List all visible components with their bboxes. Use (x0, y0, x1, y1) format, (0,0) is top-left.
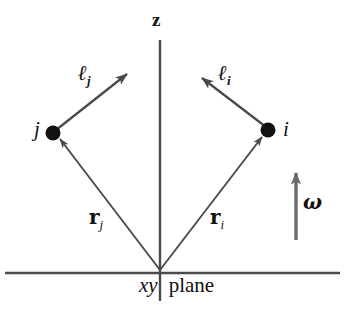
r-j-base-symbol: r (89, 205, 100, 229)
ell-j-subscript: j (87, 73, 91, 88)
ell-i-base-symbol: ℓ (218, 60, 227, 85)
omega-label: ω (303, 192, 322, 212)
particle-j-label: j (34, 119, 40, 140)
z-axis-label: z (152, 10, 160, 29)
angular-momentum-diagram: z i j ℓj ℓi rj ri ω xyplane (0, 0, 346, 309)
ell-i-subscript: i (227, 73, 231, 88)
diagram-canvas (0, 0, 346, 309)
r-i-vector (160, 137, 262, 270)
r-i-label: ri (210, 207, 224, 227)
ell-i-vector (202, 78, 266, 127)
particle-j-dot (46, 126, 61, 141)
particle-i-label: i (283, 119, 289, 140)
ell-j-label: ℓj (78, 62, 91, 83)
xy-plane-word-text: plane (169, 273, 214, 297)
xy-plane-label: xyplane (139, 275, 214, 296)
r-i-base-symbol: r (210, 205, 221, 229)
ell-i-label: ℓi (218, 62, 231, 83)
r-j-subscript: j (100, 217, 104, 232)
r-j-label: rj (89, 207, 103, 227)
ell-j-vector (56, 74, 127, 130)
xy-plane-axes-text: xy (139, 273, 158, 297)
particle-i-dot (261, 123, 276, 138)
r-i-subscript: i (221, 217, 225, 232)
r-j-vector (60, 139, 160, 270)
ell-j-base-symbol: ℓ (78, 60, 87, 85)
